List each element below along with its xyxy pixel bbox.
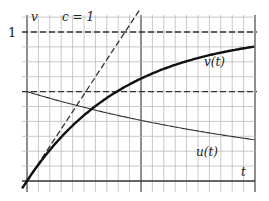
u-curve-label: u(t)	[196, 145, 218, 159]
y-axis-label: v	[31, 10, 38, 24]
x-axis-label: t	[241, 165, 246, 179]
param-label: c = 1	[62, 10, 94, 24]
grid	[22, 15, 255, 192]
chart: v c = 1 1 v(t) u(t) t	[0, 0, 269, 201]
v-curve-label: v(t)	[204, 55, 225, 69]
y-tick-one: 1	[8, 25, 16, 40]
reference-lines	[22, 10, 257, 181]
